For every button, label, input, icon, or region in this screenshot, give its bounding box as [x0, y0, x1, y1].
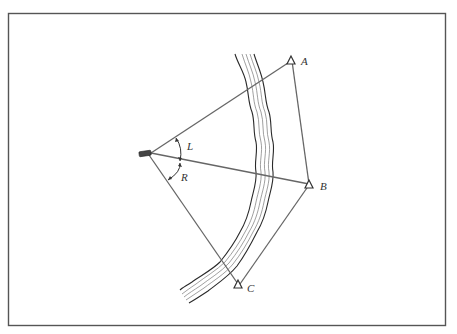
- resection-diagram: A B C L R: [0, 0, 457, 334]
- river-flow-line: [182, 54, 262, 294]
- angle-l-label: L: [186, 140, 193, 152]
- station-c-triangle-icon: [234, 280, 242, 288]
- figure-frame: [9, 14, 446, 326]
- sight-line-c: [149, 155, 238, 284]
- sight-line-a: [151, 61, 291, 153]
- sight-line-b: [151, 153, 309, 184]
- station-b-label: B: [320, 180, 327, 192]
- angle-r-label: R: [180, 171, 188, 183]
- station-a-label: A: [300, 55, 308, 67]
- angle-r-arc: [168, 163, 182, 180]
- baseline-b-c: [240, 185, 309, 284]
- river: [180, 54, 274, 303]
- station-a-triangle-icon: [287, 56, 295, 64]
- river-flow-line: [184, 54, 266, 297]
- station-c-label: C: [247, 282, 255, 294]
- baseline-a-b: [292, 61, 309, 184]
